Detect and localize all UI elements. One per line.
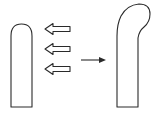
bent-rod bbox=[117, 4, 150, 107]
original-rod bbox=[11, 24, 32, 107]
diagram-canvas bbox=[0, 0, 156, 114]
hollow-arrow-left-icon bbox=[45, 44, 70, 55]
force-arrows bbox=[45, 24, 70, 75]
hollow-arrow-left-icon bbox=[45, 64, 70, 75]
arrow-right-icon bbox=[99, 57, 106, 63]
transform-arrow bbox=[81, 57, 106, 63]
hollow-arrow-left-icon bbox=[45, 24, 70, 35]
